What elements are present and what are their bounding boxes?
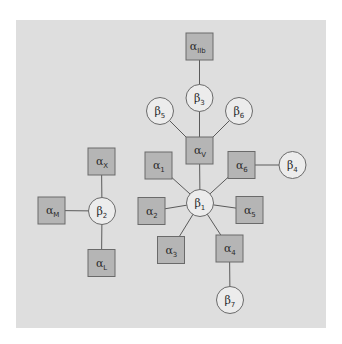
node-label-subscript: 6: [240, 112, 245, 120]
beta-subunit-b7: β7: [217, 287, 244, 314]
node-label-subscript: 6: [243, 166, 248, 174]
beta-subunit-b6: β6: [226, 98, 253, 125]
alpha-subunit-aIIb: αIIb: [186, 33, 213, 60]
alpha-subunit-a3: α3: [158, 237, 185, 264]
alpha-subunit-a2: α2: [138, 198, 165, 225]
beta-subunit-b1: β1: [187, 190, 214, 217]
alpha-subunit-aM: αM: [38, 197, 65, 224]
node-label-subscript: X: [103, 162, 108, 170]
alpha-subunit-a5: α5: [236, 197, 263, 224]
alpha-subunit-aV: αV: [186, 137, 213, 164]
node-label-subscript: 5: [161, 112, 165, 120]
beta-subunit-b4: β4: [279, 152, 306, 179]
node-label-subscript: 1: [160, 166, 164, 174]
alpha-subunit-a4: α4: [216, 235, 243, 262]
alpha-subunit-a6: α6: [228, 152, 255, 179]
beta-subunit-b2: β2: [89, 198, 116, 225]
node-label-subscript: 3: [173, 251, 177, 259]
node-label-subscript: 4: [293, 166, 298, 174]
node-label-subscript: M: [53, 211, 59, 219]
node-label-subscript: IIb: [197, 47, 206, 55]
alpha-subunit-aL: αL: [88, 250, 115, 277]
beta-subunit-b3: β3: [186, 85, 213, 112]
integrin-network-diagram: αIIbβ3β5β6αVα1α6β4β1α2α5α3α4β7αXβ2αMαL: [0, 0, 342, 344]
node-label-subscript: 3: [200, 99, 204, 107]
node-label-subscript: 2: [103, 212, 107, 220]
node-label-subscript: 4: [231, 249, 236, 257]
node-layer: αIIbβ3β5β6αVα1α6β4β1α2α5α3α4β7αXβ2αMαL: [38, 33, 306, 314]
node-label-subscript: V: [201, 151, 206, 159]
node-label-subscript: 2: [153, 212, 157, 220]
node-label-subscript: 1: [201, 204, 205, 212]
node-label-subscript: 5: [251, 211, 255, 219]
alpha-subunit-a1: α1: [145, 152, 172, 179]
beta-subunit-b5: β5: [147, 98, 174, 125]
node-label-subscript: L: [103, 264, 107, 272]
node-label-subscript: 7: [231, 301, 235, 309]
alpha-subunit-aX: αX: [88, 148, 115, 175]
